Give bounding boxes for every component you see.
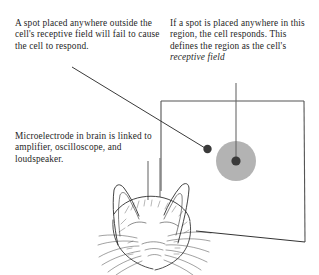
- cat-head-illustration: [98, 184, 211, 275]
- receptive-field-diagram: A spot placed anywhere outside the cell'…: [0, 0, 319, 275]
- cat-muzzle-mid: [145, 249, 163, 251]
- cat-muzzle-top: [142, 242, 165, 244]
- cat-whiskers-left: [98, 235, 142, 275]
- cat-face-right: [155, 222, 191, 270]
- cat-brow-left: [128, 222, 146, 226]
- cat-muzzle-low: [148, 255, 161, 257]
- stimulus-spot-inside: [231, 156, 240, 165]
- cat-cheek-fur: [127, 241, 180, 255]
- microelectrode: [148, 158, 160, 200]
- cat-left-ear-inner: [119, 193, 140, 236]
- screen-bottom-edge: [196, 231, 305, 242]
- stimulus-spot-outside: [203, 145, 211, 153]
- cat-whiskers-right: [164, 232, 211, 275]
- leader-line-outside-spot: [72, 67, 205, 148]
- cat-brow-right: [160, 222, 178, 226]
- screen-right-edge: [304, 101, 305, 242]
- cat-right-ear-inner: [164, 194, 182, 235]
- diagram-graphics-layer: [0, 0, 319, 275]
